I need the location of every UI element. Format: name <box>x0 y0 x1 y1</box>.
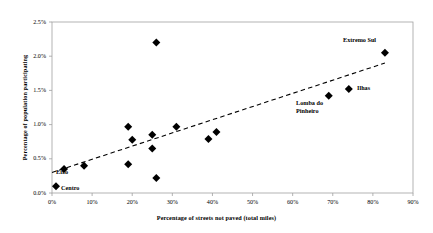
x-tick-label: 10% <box>77 199 107 205</box>
x-tick-label: 30% <box>157 199 187 205</box>
point-label-lomba-do-pinheiro: Lomba doPinheiro <box>296 99 323 114</box>
point-label-centro: Centro <box>61 184 79 192</box>
lomba-line-1: Lomba do <box>296 99 323 106</box>
lomba-line-2: Pinheiro <box>296 107 319 114</box>
x-tick-label: 20% <box>117 199 147 205</box>
x-tick-label: 80% <box>358 199 388 205</box>
point-label-ilhas: Ilhas <box>357 84 370 92</box>
x-axis-title: Percentage of streets not paved (total m… <box>0 214 433 221</box>
x-tick-label: 0% <box>37 199 67 205</box>
x-tick-label: 60% <box>278 199 308 205</box>
scatter-chart: 0.0%0.5%1.0%1.5%2.0%2.5% 0%10%20%30%40%5… <box>0 0 433 233</box>
x-tick-label: 40% <box>197 199 227 205</box>
x-axis-tick-marks <box>52 193 413 196</box>
x-tick-label: 50% <box>238 199 268 205</box>
x-tick-label: 70% <box>318 199 348 205</box>
point-label-extremo-sul: Extremo Sul <box>343 36 376 44</box>
y-axis-tick-marks <box>49 22 52 193</box>
plot-frame <box>52 22 413 193</box>
y-axis-title: Percentage of population participating <box>21 8 28 208</box>
point-label-eixo: Eixo <box>56 168 68 176</box>
x-tick-label: 90% <box>398 199 428 205</box>
